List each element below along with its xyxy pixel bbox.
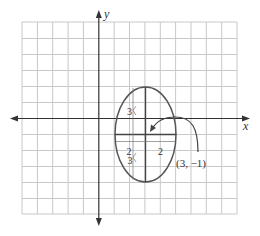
upper-brace-icon bbox=[133, 106, 136, 115]
lower-vertical-label: 3 bbox=[128, 155, 133, 166]
y-axis-down-arrow-icon bbox=[96, 218, 102, 226]
y-axis-label: y bbox=[103, 7, 110, 21]
right-horizontal-label: 2 bbox=[158, 146, 163, 157]
upper-vertical-label: 3 bbox=[127, 106, 132, 117]
y-axis-up-arrow-icon bbox=[96, 10, 102, 18]
center-point-label: (3, −1) bbox=[176, 157, 206, 170]
callout-arrowhead-icon bbox=[150, 125, 156, 133]
lower-brace-icon bbox=[133, 153, 136, 162]
ellipse-diagram: y x 3 2 3 2 (3, −1) bbox=[0, 0, 260, 236]
x-axis-label: x bbox=[242, 119, 249, 133]
x-axis-left-arrow-icon bbox=[10, 116, 18, 122]
